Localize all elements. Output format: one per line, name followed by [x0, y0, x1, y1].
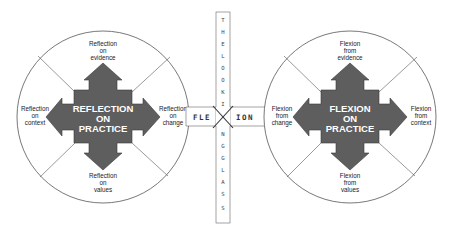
flexion-context-line2: from — [415, 112, 428, 119]
looking-glass-letter: H — [221, 29, 224, 35]
reflection-change-line3: change — [163, 119, 184, 127]
reflection-circle: REFLECTION ON PRACTICE Reflection on evi… — [17, 31, 189, 203]
flexion-change-line2: from — [276, 112, 289, 119]
flexion-center-line3: PRACTICE — [326, 123, 375, 134]
reflection-evidence-line3: evidence — [90, 54, 116, 61]
flexion-values-line1: Flexion — [340, 172, 361, 179]
reflection-context-line3: context — [25, 119, 46, 126]
flexion-values-line3: values — [341, 186, 359, 193]
flexion-values-line2: from — [344, 179, 357, 186]
reflection-values-line3: values — [94, 186, 112, 193]
flexion-change-line1: Flexion — [272, 105, 293, 112]
reflection-evidence-line1: Reflection — [89, 40, 117, 47]
reflection-context-line2: on — [31, 112, 39, 119]
flexion-evidence-line1: Flexion — [340, 40, 361, 47]
flexion-context-line3: context — [411, 119, 432, 126]
flexion-change-line3: change — [272, 119, 293, 127]
reflection-context-line1: Reflection — [21, 105, 49, 112]
band-text-left: FLE — [193, 113, 211, 122]
reflection-flexion-diagram: REFLECTION ON PRACTICE Reflection on evi… — [0, 0, 453, 233]
flexion-circle: FLEXION ON PRACTICE Flexion from evidenc… — [264, 31, 436, 203]
reflection-values-line1: Reflection — [89, 172, 117, 179]
flexion-evidence-line2: from — [344, 47, 357, 54]
reflection-center-line3: PRACTICE — [79, 123, 128, 134]
flexion-context-line1: Flexion — [411, 105, 432, 112]
looking-glass-letter: S — [221, 205, 224, 211]
flexion-evidence-line3: evidence — [337, 54, 363, 61]
looking-glass-letter: N — [221, 131, 224, 137]
reflection-values-line2: on — [99, 179, 107, 186]
band-text-right: ION — [236, 113, 254, 122]
reflection-change-line1: Reflection — [159, 105, 187, 112]
reflection-evidence-line2: on — [99, 47, 107, 54]
looking-glass-letter: S — [221, 191, 224, 197]
reflection-change-line2: on — [169, 112, 177, 119]
looking-glass-letter: I — [221, 101, 224, 107]
